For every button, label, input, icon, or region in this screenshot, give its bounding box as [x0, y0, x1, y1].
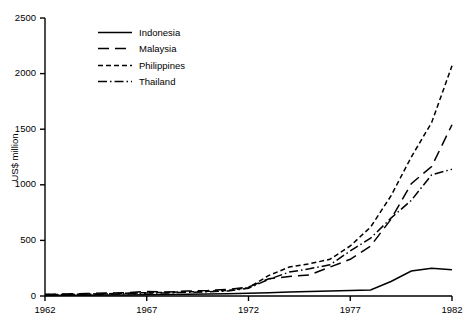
- series-line-malaysia: [45, 125, 452, 295]
- series-line-indonesia: [45, 268, 452, 295]
- y-tick-label: 0: [2, 290, 36, 301]
- x-tick-label: 1962: [25, 304, 65, 315]
- x-tick-label: 1972: [229, 304, 269, 315]
- y-axis-ticks: [40, 18, 45, 296]
- legend-item-philippines: Philippines: [98, 57, 238, 74]
- series-line-philippines: [45, 66, 452, 295]
- x-axis-ticks: [45, 296, 452, 301]
- legend-item-thailand: Thailand: [98, 74, 238, 91]
- y-axis-title: US$ million: [9, 113, 20, 203]
- legend-swatch-dashdot-icon: [98, 76, 132, 87]
- legend-label-thailand: Thailand: [139, 76, 175, 87]
- series-line-thailand: [45, 169, 452, 295]
- legend-swatch-dotted-icon: [98, 60, 132, 71]
- legend-item-indonesia: Indonesia: [98, 24, 238, 41]
- line-chart: 05001000150020002500 1962196719721977198…: [0, 0, 473, 326]
- y-tick-label: 2000: [2, 67, 36, 78]
- y-tick-label: 2500: [2, 12, 36, 23]
- x-tick-label: 1967: [127, 304, 167, 315]
- x-tick-label: 1982: [432, 304, 472, 315]
- legend-label-malaysia: Malaysia: [139, 43, 177, 54]
- chart-legend: Indonesia Malaysia Philippines Thailand: [98, 24, 238, 90]
- y-tick-label: 500: [2, 234, 36, 245]
- data-series-group: [45, 66, 452, 296]
- legend-label-indonesia: Indonesia: [139, 27, 180, 38]
- legend-item-malaysia: Malaysia: [98, 41, 238, 58]
- legend-label-philippines: Philippines: [139, 60, 185, 71]
- legend-swatch-solid-icon: [98, 27, 132, 38]
- legend-swatch-dashed-icon: [98, 43, 132, 54]
- x-tick-label: 1977: [330, 304, 370, 315]
